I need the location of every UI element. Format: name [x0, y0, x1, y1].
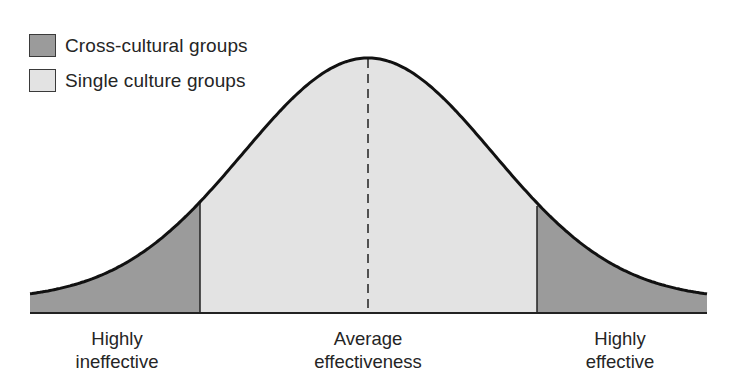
legend-item-cross-cultural: Cross-cultural groups — [29, 28, 248, 63]
right-tail-region — [537, 203, 707, 313]
left-tail-region — [30, 202, 200, 313]
label-highly-ineffective: Highly ineffective — [52, 327, 182, 373]
label-line: effectiveness — [288, 350, 448, 373]
label-line: Highly — [52, 327, 182, 350]
label-highly-effective: Highly effective — [555, 327, 685, 373]
label-line: Average — [288, 327, 448, 350]
legend: Cross-cultural groups Single culture gro… — [29, 28, 248, 98]
legend-label: Single culture groups — [65, 70, 246, 92]
cross-cultural-swatch — [29, 34, 56, 57]
legend-label: Cross-cultural groups — [65, 35, 248, 57]
legend-item-single-culture: Single culture groups — [29, 63, 248, 98]
label-average-effectiveness: Average effectiveness — [288, 327, 448, 373]
label-line: effective — [555, 350, 685, 373]
single-culture-swatch — [29, 69, 56, 92]
label-line: ineffective — [52, 350, 182, 373]
label-line: Highly — [555, 327, 685, 350]
